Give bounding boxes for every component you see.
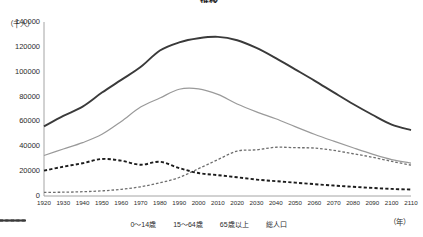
legend-item-総人口[interactable]: 総人口 [266, 219, 287, 229]
series-line-総人口 [44, 37, 411, 130]
legend-label: 総人口 [266, 219, 287, 229]
legend-item-15～64歳[interactable]: 15～64歳 [173, 219, 203, 229]
series-line-0～14歳 [44, 159, 411, 190]
series-line-15～64歳 [44, 88, 411, 163]
legend-label: 0～14歳 [130, 219, 156, 229]
series-line-65歳以上 [44, 147, 411, 192]
legend-swatch-icon [0, 217, 26, 224]
legend-item-0～14歳[interactable]: 0～14歳 [130, 219, 156, 229]
legend-label: 65歳以上 [220, 219, 249, 229]
chart-legend: 0～14歳15～64歳65歳以上総人口 [0, 217, 417, 231]
legend-label: 15～64歳 [173, 219, 203, 229]
legend-item-65歳以上[interactable]: 65歳以上 [220, 219, 249, 229]
